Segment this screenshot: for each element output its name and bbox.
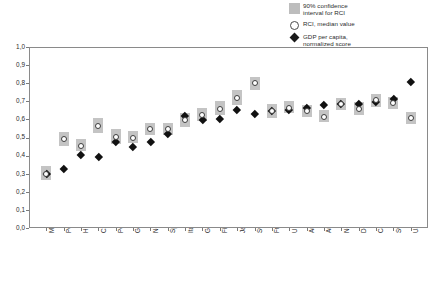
y-axis-tick-label: 0,4 [3,152,25,158]
legend-label-confidence: 90% confidence interval for RCI [303,2,348,17]
rci-median-marker [78,143,84,149]
plot-marks-layer [29,47,428,228]
legend-key-confidence [286,2,303,14]
rci-median-marker [356,106,362,112]
gdp-per-capita-marker [94,153,102,161]
rci-median-marker [252,80,258,86]
rci-median-marker [304,108,310,114]
rci-median-marker [113,134,119,140]
legend-label-gdp: GDP per capita, normalized score [303,33,351,48]
y-axis-tick-label: 0,8 [3,80,25,86]
median-circle-icon [290,21,299,30]
chart-container: 90% confidence interval for RCI RCI, med… [0,0,443,283]
rci-median-marker [321,114,327,120]
rci-median-marker [286,105,292,111]
gdp-per-capita-marker [146,138,154,146]
gdp-per-capita-marker [233,105,241,113]
gdp-per-capita-marker [320,101,328,109]
y-axis-tick-label: 0,6 [3,116,25,122]
y-axis-tick-label: 0,0 [3,225,25,231]
legend-item-confidence-interval: 90% confidence interval for RCI [286,2,441,17]
rci-median-marker [234,95,240,101]
gdp-per-capita-marker [407,78,415,86]
x-axis-tick-mark [185,228,186,231]
confidence-band-swatch-icon [289,3,300,14]
gdp-per-capita-marker [216,115,224,123]
y-axis-tick-label: 0,5 [3,134,25,140]
chart-legend: 90% confidence interval for RCI RCI, med… [286,2,441,51]
y-axis-tick-label: 0,1 [3,207,25,213]
y-axis-tick-label: 0,3 [3,171,25,177]
gdp-per-capita-marker [60,165,68,173]
y-axis-tick-label: 1,0 [3,44,25,50]
legend-key-median [286,20,303,30]
y-axis-tick-label: 0,7 [3,98,25,104]
gdp-per-capita-marker [251,110,259,118]
legend-key-gdp [286,33,303,41]
rci-median-marker [61,136,67,142]
y-axis-tick-label: 0,2 [3,189,25,195]
gdp-per-capita-marker [129,143,137,151]
rci-median-marker [217,106,223,112]
legend-item-gdp: GDP per capita, normalized score [286,33,441,48]
y-axis-tick-label: 0,9 [3,62,25,68]
gdp-diamond-icon [290,32,300,42]
gdp-per-capita-marker [77,151,85,159]
legend-item-median: RCI, median value [286,20,441,30]
legend-label-median: RCI, median value [303,20,355,27]
y-axis-tick-mark [26,228,29,229]
rci-median-marker [130,135,136,141]
